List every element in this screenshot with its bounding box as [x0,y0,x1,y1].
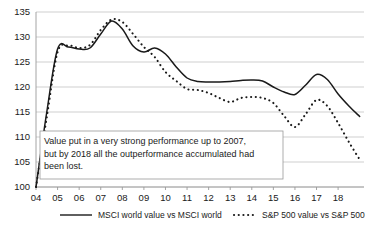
x-axis-tick-label: 06 [74,192,85,203]
x-axis-tick-label: 08 [117,192,128,203]
x-axis-tick-label: 05 [52,192,63,203]
y-axis-tick-label: 135 [14,6,30,17]
chart-canvas: 100105110115120125130135 040506070809101… [0,0,368,231]
x-axis-tick-label: 15 [268,192,279,203]
legend-label-sp500-value: S&P 500 value vs S&P 500 [262,210,365,220]
x-axis-tick-label: 11 [182,192,192,203]
x-axis-tick-labels: 040506070809101112131415161718 [31,192,344,203]
y-axis-tick-label: 130 [14,31,30,42]
y-axis-tick-label: 125 [14,56,30,67]
x-axis-tick-label: 13 [225,192,236,203]
line-chart: 100105110115120125130135 040506070809101… [0,0,368,231]
annotation-line-2: but by 2018 all the outperformance accum… [44,149,254,159]
x-axis-tick-label: 18 [333,192,344,203]
legend-label-msci-world-value: MSCI world value vs MSCI world [98,210,222,220]
y-axis-tick-label: 115 [15,106,30,117]
annotation-line-1: Value put in a very strong performance u… [44,136,246,146]
x-axis-tick-label: 16 [290,192,301,203]
y-axis-tick-label: 100 [14,181,30,192]
x-axis-tick-label: 12 [203,192,214,203]
x-axis-tick-label: 07 [95,192,106,203]
chart-annotation: Value put in a very strong performance u… [40,131,283,179]
x-axis-tick-label: 10 [160,192,171,203]
annotation-line-3: been lost. [44,161,83,171]
y-axis-tick-label: 105 [14,156,30,167]
y-axis-tick-labels: 100105110115120125130135 [14,6,30,192]
x-axis-tick-label: 14 [247,192,258,203]
y-axis-tick-label: 110 [15,131,30,142]
x-axis-tick-label: 04 [31,192,42,203]
y-axis-tick-label: 120 [14,81,30,92]
chart-legend: MSCI world value vs MSCI world S&P 500 v… [60,210,365,220]
x-axis-tick-label: 09 [139,192,150,203]
x-axis-tick-label: 17 [311,192,322,203]
